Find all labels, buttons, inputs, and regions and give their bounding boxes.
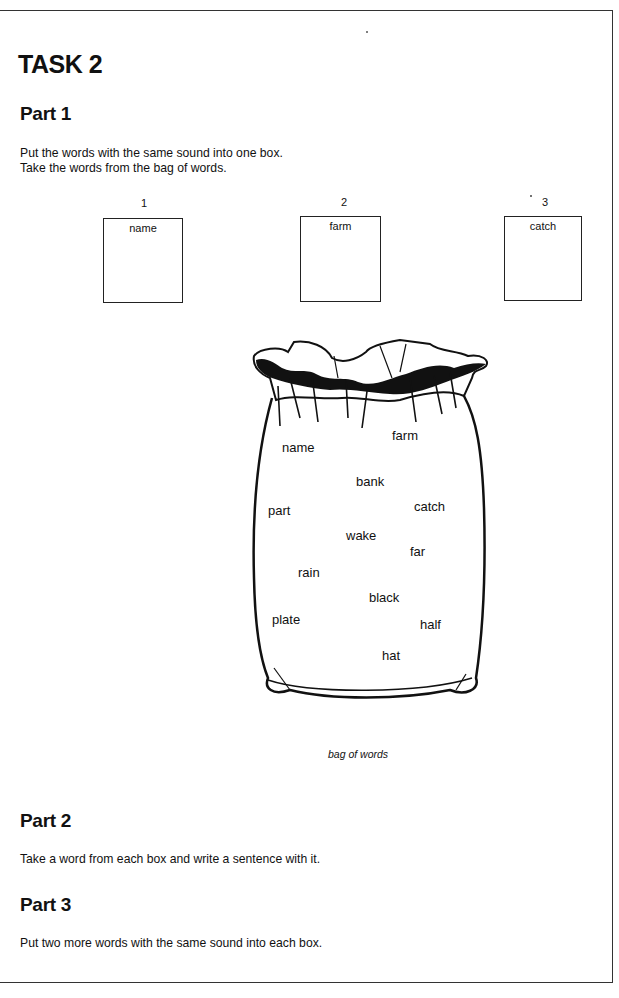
bag-word-name: name: [282, 440, 315, 455]
sound-box-1[interactable]: name: [103, 218, 183, 303]
box-1-number: 1: [134, 197, 154, 209]
bag-word-rain: rain: [298, 565, 320, 580]
bag-word-plate: plate: [272, 612, 300, 627]
part-2-heading: Part 2: [20, 810, 71, 832]
part-3-instruction: Put two more words with the same sound i…: [20, 936, 322, 951]
task-title: TASK 2: [18, 50, 102, 79]
bag-illustration: [250, 338, 492, 700]
bag-word-black: black: [369, 590, 399, 605]
part-1-heading: Part 1: [20, 103, 71, 125]
part-1-instruction-2: Take the words from the bag of words.: [20, 161, 227, 176]
bag-word-bank: bank: [356, 474, 384, 489]
bag-word-hat: hat: [382, 648, 400, 663]
box-3-word: catch: [505, 220, 581, 232]
sound-box-2[interactable]: farm: [300, 216, 381, 302]
box-3-speck: [530, 195, 532, 197]
bag-word-farm: farm: [392, 428, 418, 443]
scan-speck: [366, 31, 368, 33]
box-2-word: farm: [301, 220, 380, 232]
box-2-number: 2: [334, 196, 354, 208]
part-2-instruction: Take a word from each box and write a se…: [20, 852, 320, 867]
bag-caption: bag of words: [328, 748, 388, 760]
bag-word-far: far: [410, 544, 425, 559]
bag-word-wake: wake: [346, 528, 376, 543]
bag-word-half: half: [420, 617, 441, 632]
part-1-instruction-1: Put the words with the same sound into o…: [20, 146, 283, 161]
sound-box-3[interactable]: catch: [504, 216, 582, 301]
bag-word-part: part: [268, 503, 290, 518]
part-3-heading: Part 3: [20, 894, 71, 916]
box-3-number: 3: [535, 196, 555, 208]
bag-word-catch: catch: [414, 499, 445, 514]
box-1-word: name: [104, 222, 182, 234]
